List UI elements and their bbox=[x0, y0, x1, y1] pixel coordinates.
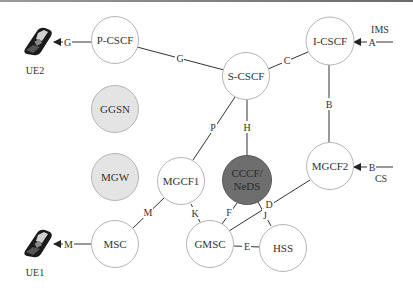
interface-label: P bbox=[210, 122, 216, 133]
network-diagram: G G C A B B P H M M K F D J E P- bbox=[0, 0, 413, 290]
node-label: HSS bbox=[273, 242, 293, 254]
ue2-label: UE2 bbox=[26, 65, 44, 76]
node-pcscf[interactable]: P-CSCF bbox=[92, 17, 139, 64]
interface-label: M bbox=[64, 239, 73, 250]
interface-label: M bbox=[144, 207, 153, 218]
node-label: S-CSCF bbox=[228, 70, 265, 82]
interface-label: C bbox=[284, 55, 291, 66]
ims-domain-label: IMS bbox=[371, 24, 389, 35]
interface-label: B bbox=[369, 162, 376, 173]
interface-label: F bbox=[226, 207, 232, 218]
interface-label: H bbox=[243, 122, 250, 133]
node-cccf-neds[interactable]: CCCF/ NeDS bbox=[223, 156, 272, 205]
nodes: P-CSCF S-CSCF I-CSCF GGSN MGW MGCF1 MGCF… bbox=[92, 17, 355, 272]
node-label: GMSC bbox=[194, 238, 225, 250]
node-icscf[interactable]: I-CSCF bbox=[306, 17, 354, 65]
node-mgcf1[interactable]: MGCF1 bbox=[158, 158, 205, 205]
interface-label: E bbox=[244, 241, 250, 252]
interface-label: D bbox=[265, 199, 272, 210]
node-label: P-CSCF bbox=[97, 34, 134, 46]
node-label: GGSN bbox=[100, 103, 130, 115]
node-ggsn[interactable]: GGSN bbox=[92, 86, 139, 133]
interface-label: A bbox=[368, 37, 376, 48]
node-label: MGCF2 bbox=[312, 160, 349, 172]
mobile-phone-icon bbox=[24, 230, 51, 257]
node-label: MGCF1 bbox=[163, 175, 200, 187]
interface-label: B bbox=[326, 99, 333, 110]
interface-label: K bbox=[191, 208, 199, 219]
ue1-terminal[interactable]: UE1 bbox=[24, 230, 51, 278]
node-mgw[interactable]: MGW bbox=[92, 154, 139, 201]
node-label: I-CSCF bbox=[313, 35, 347, 47]
mobile-phone-icon bbox=[24, 28, 51, 55]
node-mgcf2[interactable]: MGCF2 bbox=[307, 143, 354, 190]
interface-label: G bbox=[176, 53, 183, 64]
node-scscf[interactable]: S-CSCF bbox=[223, 53, 270, 100]
node-msc[interactable]: MSC bbox=[92, 221, 139, 268]
ue2-terminal[interactable]: UE2 bbox=[24, 28, 51, 76]
interface-label: J bbox=[263, 210, 267, 221]
ue1-label: UE1 bbox=[26, 267, 44, 278]
node-label: NeDS bbox=[234, 180, 261, 192]
cs-domain-label: CS bbox=[375, 173, 387, 184]
node-label: MGW bbox=[101, 171, 130, 183]
node-gmsc[interactable]: GMSC bbox=[187, 221, 234, 268]
interface-label: G bbox=[64, 37, 71, 48]
node-label: CCCF/ bbox=[231, 167, 263, 179]
node-hss[interactable]: HSS bbox=[260, 225, 307, 272]
node-label: MSC bbox=[103, 238, 126, 250]
